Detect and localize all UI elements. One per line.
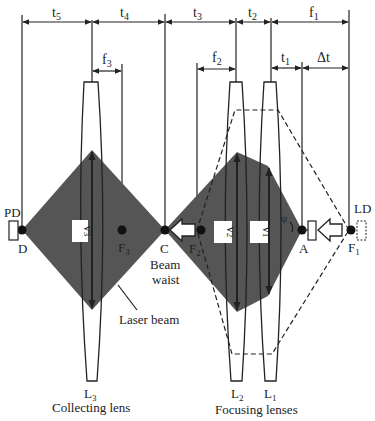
svg-text:Beam: Beam <box>150 257 180 272</box>
laser-beam-leader <box>118 285 137 310</box>
svg-text:Focusing lenses: Focusing lenses <box>215 402 298 417</box>
laser-beam-label: Laser beam <box>119 312 179 327</box>
svg-text:Collecting lens: Collecting lens <box>52 400 130 415</box>
svg-text:PD: PD <box>4 205 21 220</box>
svg-text:t2: t2 <box>248 5 257 22</box>
laser-diode <box>357 221 366 240</box>
svg-text:v2: v2 <box>224 227 238 238</box>
svg-text:t3: t3 <box>193 5 202 22</box>
svg-text:Δt: Δt <box>317 50 330 65</box>
optical-diagram: t5 t4 t3 t2 f1 f3 f2 t1 Δt v3 v2 v1 <box>0 0 375 421</box>
arrow-left-icon <box>318 219 342 241</box>
photodetector <box>9 221 18 240</box>
lens-labels: L3 Collecting lens L2 L1 Focusing lenses <box>52 386 298 417</box>
dimension-labels: t5 t4 t3 t2 f1 f3 f2 t1 Δt <box>52 5 330 69</box>
svg-text:t5: t5 <box>52 5 61 22</box>
svg-text:L1: L1 <box>264 386 276 403</box>
svg-text:L2: L2 <box>231 386 243 403</box>
svg-text:waist: waist <box>152 272 180 287</box>
svg-text:LD: LD <box>354 201 371 216</box>
svg-text:f1: f1 <box>309 5 319 22</box>
svg-text:F1: F1 <box>348 240 360 257</box>
svg-text:t4: t4 <box>120 5 129 22</box>
top-dimension-arrows <box>23 22 348 71</box>
svg-text:f2: f2 <box>212 50 222 67</box>
svg-text:D: D <box>18 241 27 256</box>
svg-text:A: A <box>299 241 309 256</box>
svg-text:v1: v1 <box>260 227 274 238</box>
svg-text:v3: v3 <box>81 226 95 237</box>
psi-label: ψ <box>281 213 288 224</box>
svg-text:f3: f3 <box>102 52 112 69</box>
lens-element-a <box>308 221 316 240</box>
svg-text:t1: t1 <box>281 50 290 67</box>
svg-text:C: C <box>160 241 169 256</box>
